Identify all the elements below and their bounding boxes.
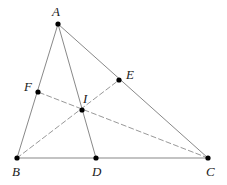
label-b: B — [12, 165, 20, 178]
cevian-BE — [17, 80, 119, 158]
point-a — [55, 21, 60, 26]
point-i — [79, 107, 84, 112]
label-a: A — [52, 5, 60, 18]
point-b — [14, 155, 19, 160]
point-f — [35, 89, 40, 94]
point-c — [205, 155, 210, 160]
figure-canvas — [0, 0, 227, 185]
cevian-CF — [38, 92, 208, 158]
label-e: E — [126, 68, 134, 81]
label-c: C — [206, 165, 215, 178]
point-e — [116, 77, 121, 82]
side-AC — [58, 24, 208, 158]
cevian-AD — [58, 24, 96, 158]
label-d: D — [92, 165, 101, 178]
label-f: F — [24, 80, 32, 93]
point-d — [93, 155, 98, 160]
dashed-segments-group — [17, 80, 208, 158]
geometry-figure: ABCDEFI — [0, 0, 227, 185]
solid-segments-group — [17, 24, 208, 158]
vertex-points-group — [14, 21, 210, 160]
label-i: I — [83, 92, 87, 105]
